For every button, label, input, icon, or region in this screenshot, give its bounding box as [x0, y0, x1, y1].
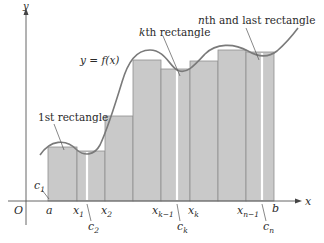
rectangle-3: [105, 116, 133, 201]
tick-xk: xk: [188, 204, 199, 219]
curve-label-text: y = f(x): [79, 54, 119, 66]
tick-xn-1: xn−1: [237, 204, 259, 219]
x-tick-labels: a x1 x2 xk−1 xk xn−1 b: [46, 202, 279, 219]
label-c1: c1: [34, 179, 45, 194]
rectangle-n: [246, 52, 274, 201]
leader-c2: [87, 204, 91, 221]
tick-a: a: [46, 204, 53, 217]
last-suffix: th and last rectangle: [205, 14, 316, 26]
rectangle-1: [48, 147, 77, 201]
label-ck: ck: [177, 220, 188, 235]
riemann-sum-diagram: y x O y = f(x) 1st rectangle kth rectang…: [0, 0, 324, 243]
kth-rectangle-label: kth rectangle: [139, 26, 210, 38]
leader-cn: [262, 204, 266, 221]
kth-suffix: th rectangle: [145, 26, 210, 38]
tick-x1: x1: [73, 204, 84, 219]
rectangle-4: [133, 60, 161, 201]
label-c2: c2: [88, 220, 99, 235]
tick-xk-1: xk−1: [152, 204, 174, 219]
tick-x2: x2: [101, 204, 112, 219]
x-axis-arrow-icon: [295, 199, 302, 204]
rectangle-k: [161, 69, 190, 201]
origin-label: O: [14, 204, 23, 217]
rectangle-7: [218, 50, 246, 201]
label-cn: cn: [263, 220, 274, 235]
curve-label: y = f(x): [79, 54, 119, 66]
last-rectangle-label: nth and last rectangle: [198, 14, 315, 26]
y-axis-label: y: [22, 0, 29, 11]
rectangle-6: [190, 61, 218, 201]
first-rectangle-label: 1st rectangle: [38, 111, 108, 123]
rectangle-2: [77, 151, 105, 201]
leader-ck: [177, 204, 180, 221]
rectangles: [48, 50, 274, 201]
tick-b: b: [272, 202, 279, 215]
x-axis-label: x: [305, 195, 312, 208]
leader-first-rectangle: [54, 124, 64, 150]
